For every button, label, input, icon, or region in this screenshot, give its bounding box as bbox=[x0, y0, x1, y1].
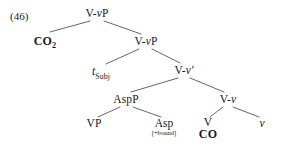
node-v-little-v: V-v bbox=[220, 94, 237, 106]
trace-subscript: Subj bbox=[95, 72, 110, 81]
tree-edge-layer bbox=[0, 0, 283, 154]
node-trace-subject: tSubj bbox=[92, 66, 110, 78]
node-asp-feature: [+bound] bbox=[152, 130, 177, 137]
node-co2-label: CO2 bbox=[34, 34, 57, 48]
edge-root-to-vp2 bbox=[104, 21, 141, 34]
node-vbar-label: V-v′ bbox=[174, 64, 193, 76]
node-co2: CO2 bbox=[34, 32, 57, 49]
edge-aspp-to-vp bbox=[98, 107, 120, 117]
node-aspp-label: AspP bbox=[113, 93, 138, 105]
co2-base: CO bbox=[34, 34, 52, 48]
node-aspp: AspP bbox=[113, 94, 138, 106]
node-intermediate-vp: V-vP bbox=[135, 36, 158, 48]
co2-subscript: 2 bbox=[52, 41, 56, 50]
edge-vp2-to-vbar bbox=[152, 49, 180, 63]
example-number-text: (46) bbox=[10, 10, 28, 22]
node-vp: VP bbox=[87, 118, 102, 130]
node-intermediate-vp-label: V-vP bbox=[135, 35, 158, 47]
syntax-tree-figure: (46) V-vP CO2 V-vP tSubj V-v′ AspP VP As… bbox=[0, 0, 283, 154]
edge-vbar-to-vlittlev bbox=[190, 78, 224, 92]
node-little-v-label: v bbox=[259, 117, 264, 129]
node-verb-lexical: CO bbox=[199, 128, 217, 141]
node-v-little-v-label: V-v bbox=[220, 93, 237, 105]
node-root-vp-label: V-vP bbox=[86, 7, 109, 19]
example-number: (46) bbox=[10, 10, 28, 22]
node-verb-head: V CO bbox=[199, 116, 217, 141]
node-vbar: V-v′ bbox=[174, 65, 193, 77]
edge-aspp-to-asp bbox=[133, 107, 161, 117]
edge-vbar-to-aspp bbox=[131, 78, 178, 92]
edge-vlittlev-to-littlev bbox=[233, 107, 259, 117]
node-root-vp: V-vP bbox=[86, 8, 109, 20]
node-asp-label: Asp bbox=[152, 117, 177, 129]
node-asp: Asp [+bound] bbox=[152, 117, 177, 137]
node-vp-label: VP bbox=[87, 117, 102, 129]
edge-vp2-to-trace bbox=[106, 49, 139, 64]
edge-root-to-co2 bbox=[50, 21, 90, 32]
node-little-v: v bbox=[259, 118, 264, 130]
